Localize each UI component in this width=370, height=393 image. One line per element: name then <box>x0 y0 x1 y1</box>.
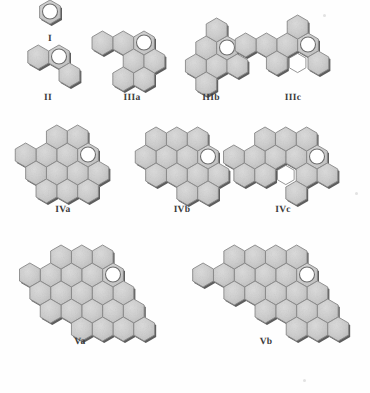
marker-circle <box>301 37 316 52</box>
marker-circle <box>310 149 325 164</box>
cluster-label-vb: Vb <box>260 337 273 347</box>
cluster-ivb <box>135 127 230 207</box>
cluster-label-ivb: IVb <box>174 205 191 215</box>
background-speck <box>355 192 358 195</box>
cluster-i <box>40 0 62 26</box>
cluster-label-ii: II <box>44 93 52 103</box>
marker-circle <box>220 40 235 55</box>
cluster-vb <box>193 245 350 343</box>
marker-circle <box>43 4 58 19</box>
marker-circle <box>81 147 96 162</box>
cluster-label-iiia: IIIa <box>123 93 140 103</box>
marker-circle <box>106 267 121 282</box>
marker-circle <box>201 149 216 164</box>
cluster-label-i: I <box>48 34 52 44</box>
cluster-label-iiic: IIIc <box>285 93 302 103</box>
figure-root: IIIIIIaIIIbIIIcIVaIVbIVcVaVb <box>0 0 370 393</box>
cluster-label-va: Va <box>74 337 85 347</box>
cluster-ii <box>28 45 82 89</box>
marker-circle <box>52 49 67 64</box>
background-speck <box>323 14 326 17</box>
hex-vacancy <box>289 53 306 72</box>
marker-circle <box>300 267 315 282</box>
marker-circle <box>137 35 152 50</box>
cluster-iiia <box>92 31 166 93</box>
clusters-layer <box>15 0 350 343</box>
cluster-va <box>19 245 156 343</box>
background-speck <box>303 379 306 382</box>
cluster-iva <box>15 125 110 205</box>
hex-vacancy <box>278 165 295 184</box>
cluster-iiic <box>235 15 330 77</box>
cluster-label-iiib: IIIb <box>202 93 220 103</box>
cluster-label-iva: IVa <box>55 205 70 215</box>
cluster-iiib <box>185 18 249 98</box>
hexagonal-cluster-diagram <box>0 0 370 393</box>
cluster-ivc <box>223 127 339 207</box>
cluster-label-ivc: IVc <box>275 205 291 215</box>
